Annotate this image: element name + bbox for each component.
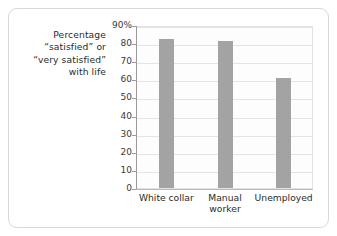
y-axis-tick-mark <box>132 44 136 45</box>
y-axis-tick-mark <box>132 135 136 136</box>
y-axis-tick-mark <box>132 26 136 27</box>
bar <box>276 78 291 188</box>
y-axis-tick-mark <box>132 153 136 154</box>
bar <box>218 41 233 188</box>
gridline <box>137 27 312 28</box>
y-axis-tick-mark <box>132 98 136 99</box>
y-axis-tick-label: 50 <box>92 93 132 102</box>
y-axis-tick-label: 60 <box>92 75 132 84</box>
chart-figure: Percentage “satisfied” or “very satisfie… <box>0 0 337 236</box>
y-axis-tick-mark <box>132 62 136 63</box>
x-axis-category-labels: White collarManualworkerUnemployed <box>137 192 313 226</box>
x-axis-category-label-line: worker <box>180 203 270 214</box>
y-axis-tick-mark <box>132 80 136 81</box>
y-axis-tick-label: 20 <box>92 148 132 157</box>
x-axis-category-label: Unemployed <box>239 192 329 203</box>
y-axis-tick-label: 90% <box>92 21 132 30</box>
y-axis-tick-mark <box>132 117 136 118</box>
y-axis-tick-label: 40 <box>92 112 132 121</box>
y-axis-tick-label: 30 <box>92 130 132 139</box>
y-axis-tick-label: 70 <box>92 57 132 66</box>
x-axis-category-label-line: Unemployed <box>239 192 329 203</box>
x-axis-line <box>136 189 313 190</box>
y-axis-tick-label: 10 <box>92 166 132 175</box>
y-axis-tick-label: 80 <box>92 39 132 48</box>
plot-area <box>137 26 313 189</box>
bar <box>159 39 174 188</box>
y-axis-tick-mark <box>132 171 136 172</box>
y-axis-tick-mark <box>132 189 136 190</box>
y-axis-line <box>136 26 137 190</box>
